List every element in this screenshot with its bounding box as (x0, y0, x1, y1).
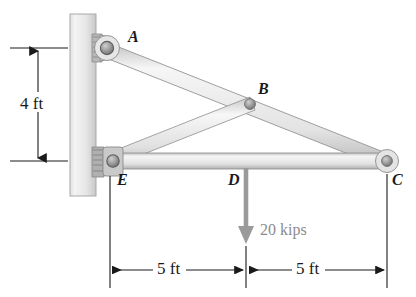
dimension-label-4ft: 4 ft (20, 95, 43, 112)
joint-label-B: B (258, 81, 269, 97)
joint-label-D: D (228, 172, 240, 188)
wall-bracket-e (92, 147, 104, 177)
pin-C (382, 156, 393, 167)
dimension-label-5ft-left: 5 ft (157, 260, 180, 277)
load-label: 20 kips (260, 222, 307, 238)
pin-E (107, 155, 119, 167)
joint-label-C: C (392, 172, 403, 188)
joint-label-A: A (128, 29, 139, 45)
truss-diagram-canvas (0, 0, 416, 297)
pin-B (245, 99, 256, 110)
dimension-label-5ft-right: 5 ft (296, 260, 319, 277)
truss-figure: A B C D E 4 ft 5 ft 5 ft 20 kips (0, 0, 416, 297)
member-E-C (103, 153, 390, 169)
joint-label-E: E (117, 172, 128, 188)
pin-A (100, 41, 113, 54)
load-arrow (238, 168, 254, 244)
